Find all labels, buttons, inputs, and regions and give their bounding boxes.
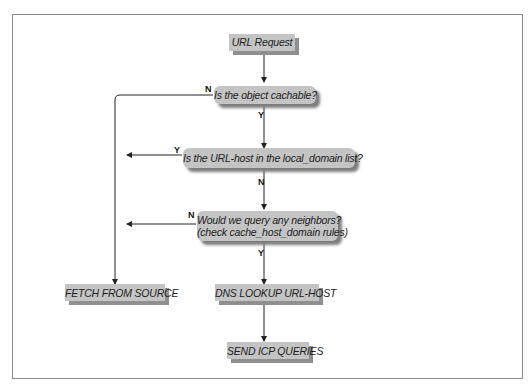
node-fetch-from-source: FETCH FROM SOURCE [65,284,165,301]
node-query-neighbors-line1: Would we query any neighbors? [197,214,338,226]
node-url-request: URL Request [229,34,295,51]
node-send-icp-queries: SEND ICP QUERIES [227,342,309,359]
edge-label-local-no: N [258,177,265,187]
node-is-cachable: Is the object cachable? [214,86,316,104]
node-query-neighbors-line2: (check cache_host_domain rules) [197,226,338,238]
flow-connectors [0,0,532,387]
node-query-neighbors: Would we query any neighbors? (check cac… [197,211,338,241]
edge-label-cachable-yes: Y [258,110,264,120]
node-local-domain-check: Is the URL-host in the local_domain list… [183,148,355,168]
edge-label-neighbors-yes: Y [258,248,264,258]
edge-label-neighbors-no: N [188,210,195,220]
edge-label-cachable-no: N [205,84,212,94]
edge-label-local-yes: Y [174,145,180,155]
node-dns-lookup: DNS LOOKUP URL-HOST [215,284,319,301]
